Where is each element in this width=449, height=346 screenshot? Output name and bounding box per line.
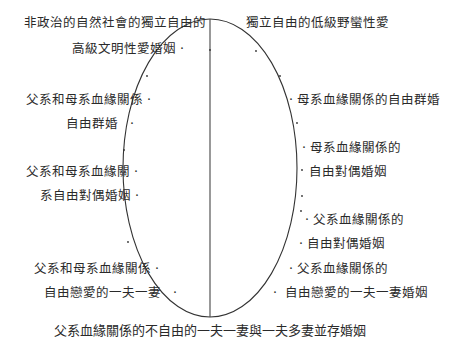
label-left-3-line1: 父系和母系血緣關係 · — [34, 262, 159, 276]
marker-dots — [123, 49, 303, 243]
label-text: 系自由對偶婚姻 — [40, 188, 131, 203]
label-text: 父系和母系血緣關係 — [34, 261, 151, 276]
dot: · — [147, 92, 151, 107]
dot: · — [305, 212, 309, 227]
label-text: 自由對偶婚姻 — [307, 236, 385, 251]
label-right-3-line2: · 自由對偶婚姻 — [299, 237, 385, 251]
dot: · — [130, 116, 134, 131]
label-left-2-line1: 父系和母系血緣關 · — [26, 165, 138, 179]
label-right-3-line1: · 父系血緣關係的 — [305, 213, 404, 227]
label-text: 父系血緣關係的 — [313, 212, 404, 227]
dot: · — [180, 41, 184, 56]
label-right-2-line1: · 母系血緣關係的 — [302, 141, 401, 155]
label-text: 父系血緣關係的 — [297, 261, 388, 276]
dot: · — [273, 285, 277, 300]
dot: · — [134, 164, 138, 179]
label-right-1: · 母系血緣關係的自由群婚 — [289, 93, 440, 107]
dot: · — [289, 261, 293, 276]
label-text: 自由戀愛的一夫一妻婚姻 — [285, 285, 428, 300]
label-left-3-line2: 自由戀愛的一夫一妻 · — [44, 286, 177, 300]
dot: · — [155, 261, 159, 276]
dot: · — [289, 92, 293, 107]
label-left-1-line2: 自由群婚 · — [66, 117, 134, 131]
label-text: 母系血緣關係的 — [310, 140, 401, 155]
label-right-4-line2: · 自由戀愛的一夫一妻婚姻 — [273, 286, 428, 300]
label-text: 高級文明性愛婚姻 — [72, 41, 176, 56]
label-right-4-line1: · 父系血緣關係的 — [289, 262, 388, 276]
label-text: 母系血緣關係的自由群婚 — [297, 92, 440, 107]
label-right-2-line2: 自由對偶婚姻 — [309, 165, 387, 179]
label-left-1-line1: 父系和母系血緣關係 · — [26, 93, 151, 107]
label-text: 自由戀愛的一夫一妻 — [44, 285, 161, 300]
dot: · — [302, 140, 306, 155]
dot: · — [299, 236, 303, 251]
label-top-left-line2: 高級文明性愛婚姻 · — [72, 42, 184, 56]
dot: · — [173, 285, 177, 300]
label-top-left-line1: 非政治的自然社會的獨立自由的 — [24, 16, 206, 30]
label-bottom: 父系血緣關係的不自由的一夫一妻與一夫多妻並存婚姻 — [54, 324, 366, 338]
label-top-right: 獨立自由的低級野蠻性愛 — [246, 16, 389, 30]
dot: · — [135, 188, 139, 203]
label-text: 父系和母系血緣關 — [26, 164, 130, 179]
label-left-2-line2: 系自由對偶婚姻 · — [40, 189, 139, 203]
label-text: 自由群婚 — [66, 116, 118, 131]
label-text: 父系和母系血緣關係 — [26, 92, 143, 107]
